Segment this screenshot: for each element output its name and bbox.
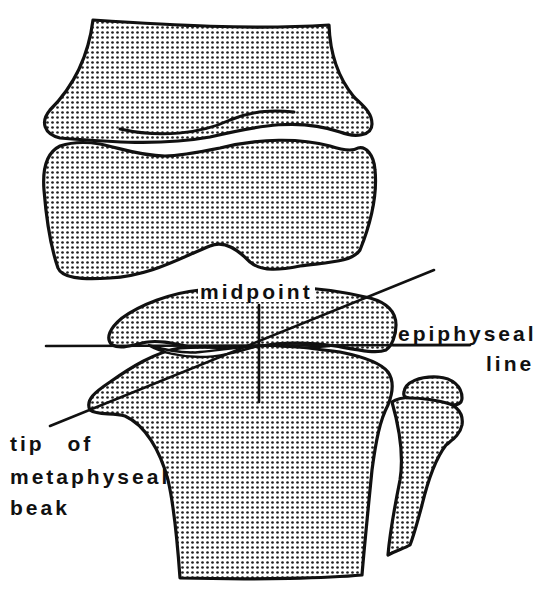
tibia-metaphysis [89, 345, 392, 578]
metaphyseal-beak-label-2: metaphyseal [10, 466, 170, 487]
metaphyseal-beak-label-3: beak [10, 497, 70, 518]
fibula [388, 397, 462, 555]
midpoint-label: midpoint [198, 281, 315, 302]
epiphyseal-line-label-2: line [486, 353, 534, 374]
femur-epiphysis [44, 140, 376, 278]
femur-metaphysis [45, 20, 372, 142]
epiphyseal-line-label-1: epiphyseal [398, 323, 537, 344]
metaphyseal-beak-label-1: tip of [10, 433, 93, 454]
